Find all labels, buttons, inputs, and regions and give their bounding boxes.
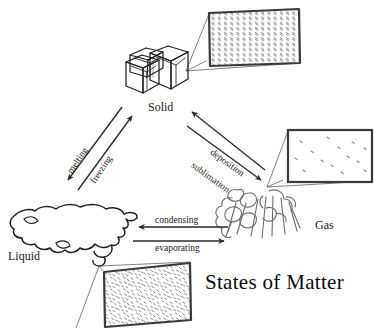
process-label-evaporating: evaporating: [155, 244, 200, 254]
state-label-liquid: Liquid: [8, 250, 40, 262]
solid-ice-cubes-illustration: [126, 46, 188, 93]
gas-particle-box: [288, 130, 372, 182]
state-label-solid: Solid: [148, 101, 173, 113]
state-label-gas: Gas: [315, 219, 334, 231]
solid-particle-box: [209, 9, 300, 66]
liquid-particle-box: [104, 263, 191, 327]
states-of-matter-diagram: Solid Liquid Gas melting freezing deposi…: [0, 0, 375, 330]
process-label-condensing: condensing: [155, 216, 198, 226]
gas-cloud-illustration: [216, 189, 300, 238]
figure-title: States of Matter: [205, 272, 344, 293]
